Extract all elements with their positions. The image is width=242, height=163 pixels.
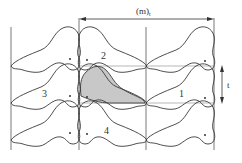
tile-r2-c1 <box>78 101 147 147</box>
tile-r1-c2 <box>146 64 215 110</box>
tile-label-4: 4 <box>104 125 109 136</box>
tiling-diagram: 2 3 1 4 (m)t t <box>0 0 242 163</box>
tile-r1-c0 <box>11 64 80 110</box>
vertical-period-arrow <box>220 65 224 104</box>
tile-r0-c0 <box>11 27 80 73</box>
vertical-period-label: t <box>227 80 230 90</box>
tile-r2-c0 <box>11 101 80 147</box>
tile-label-2: 2 <box>101 50 106 61</box>
tile-label-3: 3 <box>42 88 47 99</box>
tile-label-1: 1 <box>179 88 184 99</box>
tile-r2-c2 <box>146 101 215 147</box>
horizontal-period-label: (m)t <box>136 6 151 17</box>
horizontal-period-arrow <box>79 17 214 21</box>
tile-r0-c1 <box>78 27 147 73</box>
tile-r0-c2 <box>146 27 215 73</box>
